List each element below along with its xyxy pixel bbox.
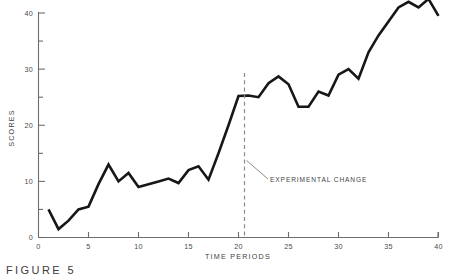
y-tick-label: 20 [24,121,33,130]
y-axis-tick-labels: 010203040 [24,9,33,243]
x-axis-title: TIME PERIODS [205,252,271,261]
x-tick-label: 35 [384,242,393,251]
x-tick-label: 20 [234,242,243,251]
x-tick-label: 25 [284,242,293,251]
x-tick-label: 0 [36,242,40,251]
y-tick-label: 0 [29,233,33,242]
axis-group [38,12,439,238]
y-axis-major-ticks [39,13,46,238]
experimental-change-label: EXPERIMENTAL CHANGE [270,176,367,183]
y-axis-title: SCORES [7,109,16,147]
x-axis-tick-labels: 0510152025303540 [36,242,442,251]
figure-caption: FIGURE 5 [6,264,76,275]
figure-container: 010203040 0510152025303540 EXPERIMENTAL … [0,0,451,275]
x-tick-label: 30 [334,242,343,251]
x-tick-label: 15 [184,242,193,251]
y-tick-label: 30 [24,65,33,74]
data-series-line [49,0,439,229]
x-axis-major-ticks [89,232,439,238]
y-tick-label: 10 [24,177,33,186]
y-tick-label: 40 [24,9,33,18]
x-tick-label: 40 [434,242,443,251]
x-tick-label: 5 [86,242,90,251]
annotation-leader-line [247,161,269,180]
x-tick-label: 10 [134,242,143,251]
line-chart: 010203040 0510152025303540 EXPERIMENTAL … [0,0,451,275]
